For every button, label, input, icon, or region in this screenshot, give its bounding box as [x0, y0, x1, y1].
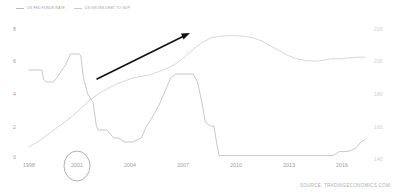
chart-container: US FED FUNDS RATE US GROSS DEBT TO GDP 8… [0, 0, 396, 196]
series-line-fed-funds-rate [29, 54, 365, 156]
source-attribution: SOURCE: TRADINGECONOMICS.COM [300, 183, 390, 188]
year-highlight-circle [64, 151, 90, 181]
trend-arrow [97, 33, 190, 79]
series-line-gross-debt-to-gdp [29, 36, 365, 147]
chart-plot-area [0, 0, 396, 196]
